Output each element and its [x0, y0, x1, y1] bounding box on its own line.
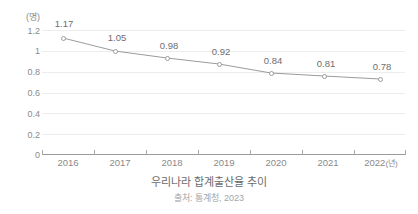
- gridline-0-2: [42, 134, 405, 135]
- x-axis-line: [42, 154, 406, 155]
- y-tick-label-1: 1: [2, 47, 40, 56]
- data-label-2020: 0.84: [264, 56, 283, 66]
- data-point-marker-2022: [378, 77, 383, 82]
- data-point-marker-2016: [61, 36, 66, 41]
- x-tick-label-2017: 2017: [109, 158, 130, 168]
- data-point-marker-2018: [165, 56, 170, 61]
- data-label-2016: 1.17: [55, 19, 74, 29]
- data-point-marker-2017: [113, 49, 118, 54]
- x-tick-label-2022: 2022(년): [364, 158, 397, 169]
- gridline-0-4: [42, 113, 405, 114]
- x-axis-tick: [302, 150, 303, 155]
- gridline-0-6: [42, 93, 405, 94]
- fertility-rate-line-chart: (명) 1.2 1 0.8 0.6 0.4 0.2 0 2016 2017 20…: [0, 0, 418, 214]
- data-point-marker-2021: [322, 74, 327, 79]
- y-tick-label-0-6: 0.6: [2, 89, 40, 98]
- chart-title: 우리나라 합계출산율 추이: [0, 176, 418, 189]
- gridline-1-2: [42, 30, 405, 31]
- y-tick-label-0-8: 0.8: [2, 68, 40, 77]
- x-axis-unit-label: (년): [385, 159, 397, 168]
- data-label-2017: 1.05: [108, 33, 127, 43]
- gridline-0-8: [42, 72, 405, 73]
- data-label-2019: 0.92: [212, 47, 231, 57]
- data-label-2022: 0.78: [373, 62, 392, 72]
- x-axis-tick: [94, 150, 95, 155]
- x-axis-tick: [146, 150, 147, 155]
- chart-source: 출처: 통계청, 2023: [0, 193, 418, 204]
- data-point-marker-2019: [217, 62, 222, 67]
- x-axis-tick: [42, 150, 43, 155]
- x-tick-label-2021: 2021: [317, 158, 338, 168]
- y-tick-label-0-4: 0.4: [2, 110, 40, 119]
- x-tick-label-2019: 2019: [213, 158, 234, 168]
- data-label-2018: 0.98: [160, 41, 179, 51]
- y-tick-label-1-2: 1.2: [2, 27, 40, 36]
- x-tick-label-2022-year: 2022: [364, 157, 385, 168]
- x-axis-tick: [198, 150, 199, 155]
- data-point-marker-2020: [269, 71, 274, 76]
- x-tick-label-2016: 2016: [57, 158, 78, 168]
- data-label-2021: 0.81: [317, 59, 336, 69]
- x-axis-tick: [354, 150, 355, 155]
- x-axis-tick: [250, 150, 251, 155]
- y-tick-label-0: 0: [2, 151, 40, 160]
- x-axis-tick: [405, 150, 406, 155]
- x-tick-label-2018: 2018: [161, 158, 182, 168]
- x-tick-label-2020: 2020: [265, 158, 286, 168]
- y-tick-label-0-2: 0.2: [2, 131, 40, 140]
